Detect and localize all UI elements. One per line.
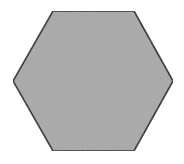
hexagon-figure — [0, 0, 184, 164]
hexagon-shape — [13, 11, 173, 151]
diagram-canvas — [0, 0, 184, 164]
